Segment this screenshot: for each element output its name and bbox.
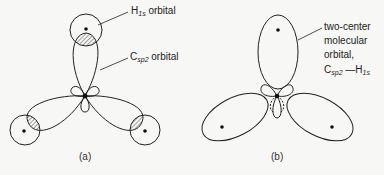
label-c-sub: sp2 — [137, 56, 148, 63]
panel-a — [10, 12, 160, 145]
bond-h-main: H — [355, 64, 362, 75]
carbon-nucleus-b — [275, 94, 280, 99]
carbon-nucleus-a — [83, 94, 88, 99]
label-h1s-orbital: H1s orbital — [131, 5, 176, 19]
label-csp2-orbital: Csp2 orbital — [130, 51, 179, 65]
label-mo-line-2: molecular — [324, 35, 367, 46]
bond-c-sub: sp2 — [331, 69, 342, 76]
bond-h-sub: 1s — [363, 69, 370, 76]
caption-b: (b) — [271, 151, 283, 162]
label-mo-line-1: two-center — [324, 21, 371, 32]
mo-top — [258, 15, 298, 89]
bond-dash: — — [343, 64, 356, 75]
label-c-rest: orbital — [149, 51, 179, 62]
label-bond: Csp2 —H1s — [324, 64, 370, 78]
caption-a: (a) — [79, 151, 91, 162]
label-mo-line-3: orbital, — [324, 49, 354, 60]
label-h-rest: orbital — [146, 5, 176, 16]
label-h-sub: 1s — [138, 10, 145, 17]
